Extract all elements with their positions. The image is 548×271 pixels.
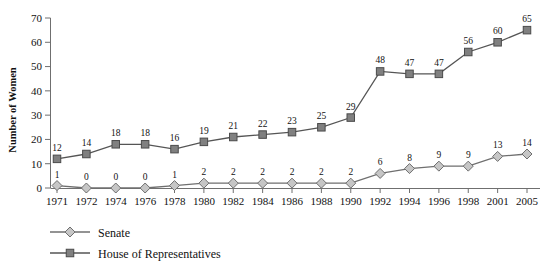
data-point-marker (463, 161, 473, 171)
legend-item-senate[interactable]: Senate (50, 226, 130, 240)
y-axis-title: Number of Women (7, 67, 18, 153)
x-tick-label: 1998 (457, 195, 480, 207)
data-point-label: 2 (290, 167, 295, 177)
data-point-marker (465, 48, 473, 56)
x-tick-label: 1992 (369, 195, 391, 207)
data-point-marker (375, 168, 385, 178)
data-point-marker (347, 114, 355, 122)
x-tick-label: 1978 (164, 195, 187, 207)
data-point-label: 12 (52, 143, 62, 153)
data-point-marker (434, 161, 444, 171)
data-point-marker (53, 155, 61, 163)
data-point-label: 60 (493, 26, 503, 36)
data-point-marker (171, 145, 179, 153)
data-point-label: 2 (231, 167, 236, 177)
y-tick-label: 40 (31, 85, 43, 97)
data-point-marker (288, 128, 296, 136)
x-tick-label: 1982 (222, 195, 244, 207)
data-point-marker (140, 183, 150, 193)
data-point-marker (405, 164, 415, 174)
data-point-label: 65 (522, 14, 532, 24)
x-tick-label: 1988 (310, 195, 333, 207)
data-point-label: 14 (522, 138, 532, 148)
data-point-marker (230, 133, 238, 141)
data-point-label: 29 (346, 102, 356, 112)
data-point-label: 14 (82, 138, 92, 148)
data-point-marker (200, 138, 208, 146)
x-tick-label: 1984 (252, 195, 275, 207)
data-point-label: 0 (84, 172, 89, 182)
series-senate: 1000122222268991314 (52, 138, 532, 193)
x-tick-label: 1971 (46, 195, 68, 207)
data-point-label: 19 (199, 126, 209, 136)
data-point-marker (493, 151, 503, 161)
x-tick-label: 1972 (75, 195, 97, 207)
data-point-label: 0 (113, 172, 118, 182)
data-point-label: 2 (260, 167, 265, 177)
data-point-label: 8 (407, 153, 412, 163)
data-point-label: 2 (348, 167, 353, 177)
data-point-label: 2 (202, 167, 207, 177)
series-house-of-representatives: 1214181816192122232529484747566065 (52, 14, 532, 162)
y-tick-label: 30 (31, 109, 43, 121)
data-point-marker (376, 68, 384, 76)
data-point-marker (83, 150, 91, 158)
data-point-marker (316, 178, 326, 188)
data-point-marker (318, 124, 326, 131)
data-point-label: 9 (466, 150, 471, 160)
data-point-label: 6 (378, 157, 383, 167)
data-point-label: 47 (434, 58, 444, 68)
data-point-label: 47 (405, 58, 415, 68)
data-point-label: 2 (319, 167, 324, 177)
x-tick-label: 2005 (516, 195, 539, 207)
data-point-label: 48 (375, 55, 385, 65)
y-tick-label: 20 (31, 133, 43, 145)
x-tick-label: 2001 (487, 195, 509, 207)
chart-legend: SenateHouse of Representatives (50, 226, 221, 261)
data-point-label: 22 (258, 119, 268, 129)
data-point-label: 23 (287, 116, 297, 126)
data-point-marker (435, 70, 443, 78)
data-point-label: 18 (140, 128, 150, 138)
data-point-label: 0 (143, 172, 148, 182)
legend-label: House of Representatives (98, 247, 221, 261)
legend-item-house-of-representatives[interactable]: House of Representatives (50, 247, 221, 261)
y-tick-label: 70 (31, 12, 43, 24)
data-point-marker (52, 181, 62, 191)
data-point-label: 1 (172, 170, 177, 180)
y-tick-group: 010203040506070 (31, 12, 51, 194)
data-point-marker (258, 178, 268, 188)
line-chart: Number of Women 010203040506070 19711972… (0, 0, 548, 271)
x-tick-label: 1990 (340, 195, 363, 207)
data-point-marker (522, 149, 532, 159)
x-tick-label: 1996 (428, 195, 451, 207)
data-point-marker (494, 39, 502, 47)
data-point-marker (259, 131, 267, 139)
data-point-marker (170, 181, 180, 191)
x-tick-label: 1986 (281, 195, 304, 207)
data-point-label: 25 (317, 111, 327, 121)
x-tick-label: 1976 (134, 195, 157, 207)
data-point-marker (81, 183, 91, 193)
legend-label: Senate (98, 226, 130, 240)
data-point-marker (141, 141, 149, 149)
series-layer: 1000122222268991314121418181619212223252… (52, 14, 532, 193)
data-point-label: 16 (170, 133, 180, 143)
y-tick-label: 10 (31, 158, 43, 170)
y-axis-title-text: Number of Women (7, 67, 18, 153)
data-point-marker (199, 178, 209, 188)
data-point-marker (112, 141, 120, 149)
data-point-marker (523, 26, 531, 34)
data-point-label: 1 (55, 170, 60, 180)
data-point-marker (406, 70, 414, 78)
legend-marker (66, 249, 74, 257)
x-tick-label: 1974 (105, 195, 128, 207)
data-point-marker (287, 178, 297, 188)
data-point-label: 21 (229, 121, 239, 131)
y-tick-label: 50 (31, 60, 43, 72)
data-point-label: 56 (464, 36, 474, 46)
data-point-label: 18 (111, 128, 121, 138)
x-axis: 1971197219741976197819801982198419861988… (46, 189, 540, 208)
y-tick-label: 0 (37, 182, 43, 194)
x-tick-label: 1994 (399, 195, 422, 207)
